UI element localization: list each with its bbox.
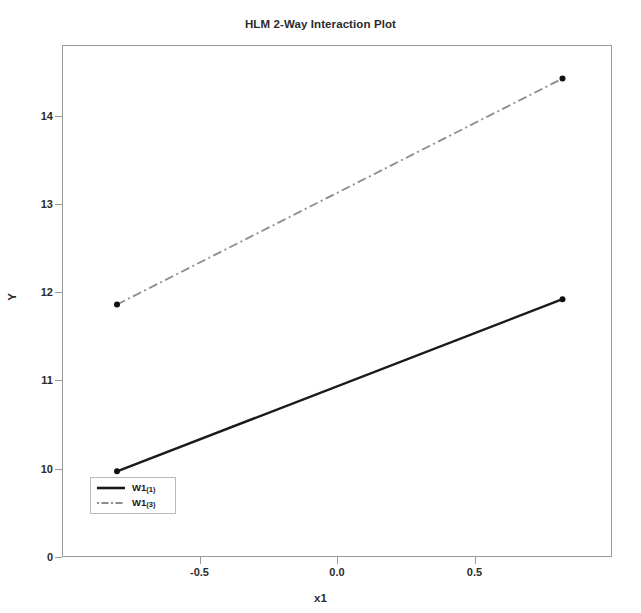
x-axis-label: x1: [0, 592, 641, 604]
x-tick-label: 0.5: [445, 566, 505, 578]
y-tick-mark: [55, 380, 62, 381]
legend-key-dashdot-line: [96, 498, 126, 508]
x-tick-label: -0.5: [170, 566, 230, 578]
legend-item-w1-1: W1(1): [96, 481, 155, 495]
y-axis-label: Y: [6, 293, 18, 301]
y-tick-mark: [55, 204, 62, 205]
x-tick-mark: [475, 557, 476, 564]
legend-label-main-0: W1: [132, 482, 146, 493]
x-axis-ticks: -0.50.00.5: [0, 0, 641, 613]
y-tick-mark: [55, 469, 62, 470]
legend-label-sub-0: (1): [146, 485, 155, 494]
y-tick-mark: [55, 116, 62, 117]
chart-figure: HLM 2-Way Interaction Plot 01011121314 -…: [0, 0, 641, 613]
legend: W1(1) W1(3): [90, 477, 176, 514]
x-tick-mark: [337, 557, 338, 564]
y-tick-mark: [55, 292, 62, 293]
x-tick-label: 0.0: [307, 566, 367, 578]
legend-label-w1-3: W1(3): [132, 498, 155, 508]
legend-item-w1-3: W1(3): [96, 496, 155, 510]
legend-label-sub-1: (3): [146, 500, 155, 509]
y-tick-mark: [55, 557, 62, 558]
legend-key-solid-line: [96, 483, 126, 493]
legend-label-w1-1: W1(1): [132, 483, 155, 493]
x-tick-mark: [200, 557, 201, 564]
legend-label-main-1: W1: [132, 497, 146, 508]
